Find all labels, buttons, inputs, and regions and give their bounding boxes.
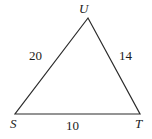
side-length-label-su: 20 (29, 49, 42, 62)
vertex-label-t: T (135, 117, 142, 130)
vertex-label-u: U (79, 2, 88, 15)
vertex-label-s: S (10, 117, 17, 130)
triangle-shape (15, 18, 140, 114)
side-length-label-st: 10 (66, 119, 79, 132)
side-length-label-ut: 14 (119, 49, 132, 62)
triangle-figure: U S T 20 14 10 (0, 0, 152, 139)
